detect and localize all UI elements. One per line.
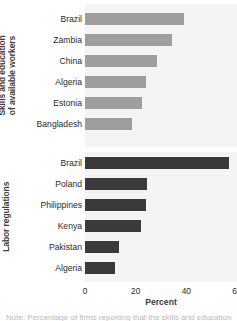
bar-skills-china xyxy=(85,55,157,67)
category-label-skills-algeria: Algeria xyxy=(0,76,82,88)
figure-caption-clipped: Note: Percentage of firms reporting that… xyxy=(6,313,234,321)
x-tick-label: 0 xyxy=(83,286,88,296)
plot-panel-labor xyxy=(85,152,237,282)
bar-skills-algeria xyxy=(85,76,146,88)
bar-labor-pakistan xyxy=(85,241,119,253)
category-label-skills-estonia: Estonia xyxy=(0,97,82,109)
category-label-skills-zambia: Zambia xyxy=(0,34,82,46)
bar-skills-estonia xyxy=(85,97,142,109)
bar-skills-bangladesh xyxy=(85,118,132,130)
bar-labor-poland xyxy=(85,178,147,190)
category-label-labor-kenya: Kenya xyxy=(0,220,82,232)
bar-chart: Skills and education of available worker… xyxy=(0,0,237,321)
category-label-labor-philippines: Philippines xyxy=(0,199,82,211)
plot-panel-skills xyxy=(85,4,237,147)
bar-labor-brazil xyxy=(85,157,229,169)
category-label-labor-poland: Poland xyxy=(0,178,82,190)
category-label-labor-brazil: Brazil xyxy=(0,157,82,169)
bar-labor-kenya xyxy=(85,220,141,232)
bar-skills-brazil xyxy=(85,13,184,25)
category-label-skills-bangladesh: Bangladesh xyxy=(0,118,82,130)
category-label-labor-algeria: Algeria xyxy=(0,262,82,274)
category-label-skills-china: China xyxy=(0,55,82,67)
x-tick-label: 40 xyxy=(182,286,191,296)
category-label-labor-pakistan: Pakistan xyxy=(0,241,82,253)
category-label-skills-brazil: Brazil xyxy=(0,13,82,25)
x-axis-title: Percent xyxy=(85,297,237,307)
bar-labor-philippines xyxy=(85,199,146,211)
bar-labor-algeria xyxy=(85,262,115,274)
x-tick-label: 20 xyxy=(131,286,140,296)
x-tick-label: 60 xyxy=(232,286,237,296)
bar-skills-zambia xyxy=(85,34,172,46)
